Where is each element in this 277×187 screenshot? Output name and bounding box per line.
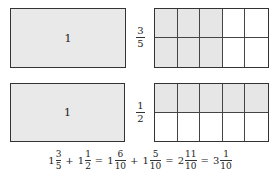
denominator: 10 [185,160,196,171]
whole-part: 1 [78,155,84,166]
mixed-number: 1 610 [107,150,126,171]
numerator: 6 [117,150,123,160]
grid-cell [245,113,268,142]
whole-box-1: 1 [10,8,126,68]
mixed-number: 1 12 [78,150,91,171]
grid-cell-shaded [200,9,223,38]
grid-cell-shaded [178,84,201,113]
whole-box-2: 1 [10,83,125,142]
whole-box-1-label: 1 [65,32,72,45]
fraction-numerator: 3 [137,26,143,37]
grid-cell-shaded [223,84,246,113]
grid-cell [245,38,268,67]
grid-cell-shaded [155,84,178,113]
numerator: 1 [85,150,91,160]
fraction-denominator: 2 [137,113,143,124]
equals-operator: = [95,155,103,166]
grid-cell-shaded [178,38,201,67]
plus-operator: + [65,155,73,166]
grid-cell [200,113,223,142]
fraction-label-three-fifths: 3 5 [136,26,145,49]
mixed-number: 2 1110 [178,150,197,171]
fraction: 1110 [185,150,196,171]
denominator: 10 [150,160,161,171]
grid-cell [155,113,178,142]
whole-box-2-label: 1 [64,106,71,119]
grid-cell [245,9,268,38]
denominator: 2 [85,160,91,171]
grid-cell-shaded [178,9,201,38]
fraction-grid-one-half [154,83,269,142]
fraction-denominator: 5 [137,38,143,49]
fraction-label-one-half: 1 2 [136,101,145,124]
fraction: 35 [56,150,62,171]
equals-operator: = [201,155,209,166]
grid-cell-shaded [245,84,268,113]
numerator: 3 [56,150,62,160]
mixed-number-equation: 1 35 + 1 12 = 1 610 + 1 510 = 2 1110 = 3… [44,150,236,171]
grid-cell-shaded [200,38,223,67]
fraction: 610 [115,150,126,171]
grid-cell-shaded [200,84,223,113]
numerator: 11 [185,150,196,160]
mixed-number: 1 510 [142,150,161,171]
fraction: 510 [150,150,161,171]
whole-part: 3 [213,155,219,166]
whole-part: 1 [142,155,148,166]
grid-cell [223,113,246,142]
grid-cell [223,38,246,67]
denominator: 10 [115,160,126,171]
denominator: 10 [220,160,231,171]
plus-operator: + [130,155,138,166]
grid-cell [223,9,246,38]
whole-part: 1 [107,155,113,166]
whole-part: 1 [48,155,54,166]
fraction: 12 [85,150,91,171]
numerator: 5 [153,150,159,160]
equals-operator: = [165,155,173,166]
fraction-numerator: 1 [137,101,143,112]
fraction: 110 [220,150,231,171]
fraction-grid-three-fifths [154,8,269,68]
mixed-number: 3 110 [213,150,232,171]
grid-cell [178,113,201,142]
grid-cell-shaded [155,38,178,67]
mixed-number: 1 35 [48,150,61,171]
whole-part: 2 [178,155,184,166]
numerator: 1 [223,150,229,160]
denominator: 5 [56,160,62,171]
grid-cell-shaded [155,9,178,38]
